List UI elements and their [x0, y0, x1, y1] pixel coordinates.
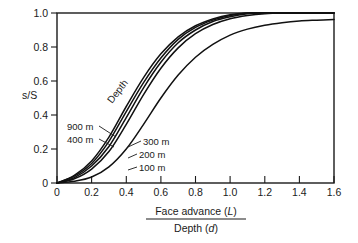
y-tick-label-0-8: 0.8 [33, 41, 48, 53]
y-tick-label-0-6: 0.6 [33, 75, 48, 87]
series-label-900m: 900 m [67, 121, 93, 132]
series-label-100m: 100 m [139, 162, 165, 173]
curve-400-m [57, 13, 334, 183]
y-tick-label-0-4: 0.4 [33, 109, 48, 121]
x-tick-label-1-0: 1.0 [223, 186, 238, 198]
x-axis-title: Face advance (L) Depth (d) [146, 205, 246, 234]
x-denominator-text: Depth ( [174, 222, 209, 234]
x-axis-title-numerator: Face advance (L) [155, 205, 237, 217]
x-tick-label-0-4: 0.4 [119, 186, 134, 198]
curve-group [57, 13, 334, 183]
y-axis-ticks [51, 13, 57, 183]
x-tick-label-0-6: 0.6 [154, 186, 169, 198]
y-axis-title: s/S [22, 89, 37, 101]
series-label-200m: 200 m [139, 149, 165, 160]
x-tick-label-0-2: 0.2 [84, 186, 99, 198]
curve-900-m [57, 13, 334, 183]
y-tick-label-0: 0 [42, 177, 48, 189]
x-tick-label-1-2: 1.2 [257, 186, 272, 198]
chart-figure: 0 0.2 0.4 0.6 0.8 1.0 s/S 0 0.2 0.4 0.6 … [0, 0, 358, 243]
x-axis-ticks [57, 176, 334, 183]
label-leader-lines [99, 126, 141, 170]
x-tick-label-0-8: 0.8 [188, 186, 203, 198]
x-tick-label-1-4: 1.4 [292, 186, 307, 198]
chart-svg: 0 0.2 0.4 0.6 0.8 1.0 s/S 0 0.2 0.4 0.6 … [0, 0, 358, 243]
x-numerator-close: ) [233, 205, 237, 217]
x-denominator-close: ) [214, 222, 218, 234]
x-axis-title-denominator: Depth (d) [174, 222, 218, 234]
series-label-300m: 300 m [143, 136, 169, 147]
y-tick-label-0-2: 0.2 [33, 143, 48, 155]
x-tick-label-0: 0 [54, 186, 60, 198]
y-tick-label-1-0: 1.0 [33, 7, 48, 19]
depth-group-annotation: Depth [105, 77, 130, 105]
curve-200-m [57, 13, 334, 183]
series-label-400m: 400 m [67, 134, 93, 145]
x-tick-label-1-6: 1.6 [327, 186, 342, 198]
plot-frame [57, 13, 334, 183]
x-numerator-text: Face advance ( [155, 205, 228, 217]
curve-300-m [57, 13, 334, 183]
